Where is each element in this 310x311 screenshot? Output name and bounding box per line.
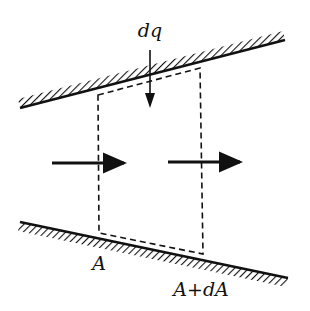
bottom-wall	[18, 222, 288, 287]
bottom-wall-hatching	[18, 222, 288, 287]
inlet-area-label: A	[90, 252, 106, 274]
bottom-wall-line	[20, 222, 288, 278]
outlet-area-label: A+dA	[171, 278, 229, 300]
flow-diagram: dq A A+dA	[0, 0, 310, 311]
inflow-label: dq	[138, 19, 162, 41]
inflow-arrow-icon	[145, 93, 155, 108]
